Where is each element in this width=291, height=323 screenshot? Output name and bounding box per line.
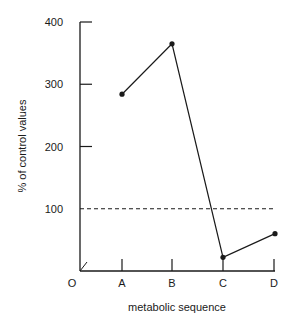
data-point	[272, 231, 277, 236]
axis-break-mark	[80, 262, 87, 271]
x-axis-title: metabolic sequence	[128, 301, 226, 313]
y-tick-label: 100	[45, 203, 63, 215]
x-tick-label: A	[118, 277, 126, 289]
series-line	[122, 44, 275, 258]
data-point	[220, 255, 225, 260]
line-chart: 100200300400 ABCD O metabolic sequence %…	[0, 0, 291, 323]
y-tick-label: 300	[45, 78, 63, 90]
data-point	[169, 41, 174, 46]
x-tick-label: C	[219, 277, 227, 289]
data-markers	[119, 41, 277, 260]
y-axis-title: % of control values	[16, 99, 28, 192]
x-tick-label: B	[168, 277, 175, 289]
y-tick-label: 200	[45, 141, 63, 153]
y-tick-label: 400	[45, 16, 63, 28]
data-point	[119, 92, 124, 97]
x-tick-label: D	[270, 277, 278, 289]
x-axis-ticks: ABCD	[118, 259, 278, 289]
origin-label: O	[68, 277, 77, 289]
y-axis-ticks: 100200300400	[45, 16, 92, 215]
